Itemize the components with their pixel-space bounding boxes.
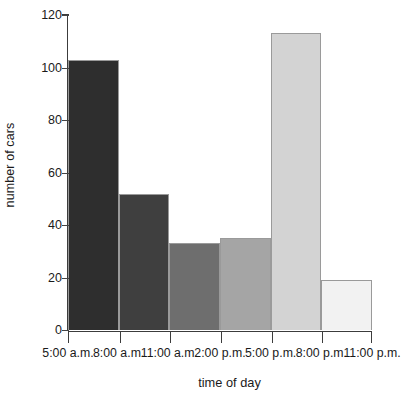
y-axis-tick-mark (62, 120, 69, 121)
y-axis-tick-mark (62, 225, 69, 226)
x-axis-title: time of day (0, 375, 419, 390)
x-axis-line (68, 331, 372, 343)
y-axis-tick-label: 100 (41, 61, 62, 75)
bar (220, 238, 271, 330)
x-axis-tick-label: 11:00 p.m. (343, 345, 400, 361)
x-axis-tick-mark (272, 332, 273, 343)
y-axis-tick-mark (62, 278, 69, 279)
x-axis-tick-label: 8:00 p.m. (296, 345, 347, 361)
y-axis-title-text: number of cars (3, 123, 17, 208)
histogram-chart: number of cars 020406080100120 5:00 a.m.… (0, 0, 419, 407)
y-axis-tick-mark (62, 68, 69, 69)
x-axis-tick-label: 11:00 a.m. (141, 345, 198, 361)
y-axis-tick-label: 80 (48, 113, 62, 127)
bar-group (68, 15, 372, 330)
x-axis-tick-mark (170, 332, 171, 343)
x-axis-tick-mark (322, 332, 323, 343)
x-axis-tick-label: 2:00 p.m. (194, 345, 245, 361)
bar (169, 243, 220, 330)
y-axis-tick-label: 0 (55, 323, 62, 337)
y-axis-tick-mark (62, 173, 69, 174)
y-axis-tick-label: 20 (48, 271, 62, 285)
plot-area (68, 15, 372, 330)
x-axis-tick-mark (120, 332, 121, 343)
x-axis-tick-label: 5:00 p.m. (245, 345, 296, 361)
bar (68, 60, 119, 330)
bar (119, 194, 170, 331)
x-axis-title-text: time of day (158, 375, 261, 390)
y-axis-title: number of cars (0, 0, 20, 330)
y-axis-tick-mark (62, 330, 69, 331)
y-axis-tick-labels: 020406080100120 (20, 0, 62, 345)
x-axis-tick-mark (221, 332, 222, 343)
y-axis-tick-label: 60 (48, 166, 62, 180)
bar (321, 280, 372, 330)
bar (271, 33, 322, 330)
y-axis-tick-mark (62, 15, 69, 16)
x-axis-tick-labels: 5:00 a.m.8:00 a.m.11:00 a.m.2:00 p.m.5:0… (0, 345, 419, 365)
y-axis-tick-label: 120 (41, 8, 62, 22)
x-axis-tick-label: 8:00 a.m. (93, 345, 144, 361)
x-axis-tick-label: 5:00 a.m. (42, 345, 93, 361)
y-axis-tick-label: 40 (48, 218, 62, 232)
